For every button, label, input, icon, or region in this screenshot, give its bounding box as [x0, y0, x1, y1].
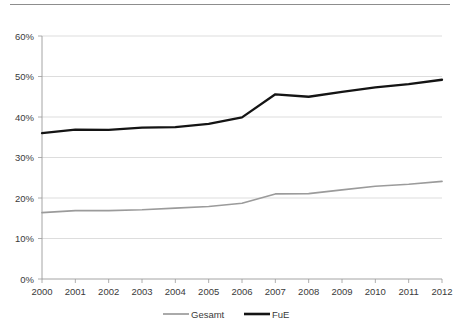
- x-tickmarks-group: [42, 279, 442, 283]
- plot-area-wrapper: 60% 50% 40% 30% 20% 10% 0% 2000 2001 200…: [0, 0, 456, 328]
- y-axis-tick-labels: 60% 50% 40% 30% 20% 10% 0%: [15, 31, 35, 285]
- x-axis-tick-labels: 2000 2001 2002 2003 2004 2005 2006 2007 …: [31, 286, 452, 297]
- y-tick-label-20: 20%: [15, 193, 35, 204]
- y-tick-label-10: 10%: [15, 233, 35, 244]
- gridlines-group: [42, 36, 442, 239]
- x-tick-label-2011: 2011: [398, 286, 418, 297]
- series-line-fue: [42, 80, 442, 133]
- x-tick-label-2007: 2007: [265, 286, 286, 297]
- legend-label-gesamt: Gesamt: [191, 309, 225, 320]
- x-tick-label-2012: 2012: [431, 286, 452, 297]
- y-tick-label-50: 50%: [15, 71, 35, 82]
- legend-group: Gesamt FuE: [163, 309, 289, 320]
- x-tick-label-2003: 2003: [131, 286, 152, 297]
- x-tick-label-2005: 2005: [198, 286, 219, 297]
- y-tick-label-60: 60%: [15, 31, 35, 42]
- x-tick-label-2009: 2009: [331, 286, 352, 297]
- y-tick-label-30: 30%: [15, 152, 35, 163]
- x-tick-label-2000: 2000: [31, 286, 52, 297]
- series-line-gesamt: [42, 181, 442, 212]
- x-tick-label-2006: 2006: [231, 286, 252, 297]
- x-tick-label-2002: 2002: [98, 286, 119, 297]
- line-chart-svg: 60% 50% 40% 30% 20% 10% 0% 2000 2001 200…: [0, 0, 456, 328]
- y-tick-label-0: 0%: [20, 274, 34, 285]
- x-tick-label-2008: 2008: [298, 286, 319, 297]
- x-tick-label-2010: 2010: [365, 286, 386, 297]
- chart-figure: 60% 50% 40% 30% 20% 10% 0% 2000 2001 200…: [0, 0, 456, 328]
- legend-label-fue: FuE: [272, 309, 289, 320]
- x-tick-label-2004: 2004: [165, 286, 186, 297]
- y-tickmarks-group: [38, 36, 42, 279]
- y-tick-label-40: 40%: [15, 112, 35, 123]
- x-tick-label-2001: 2001: [65, 286, 86, 297]
- data-series-group: [42, 80, 442, 213]
